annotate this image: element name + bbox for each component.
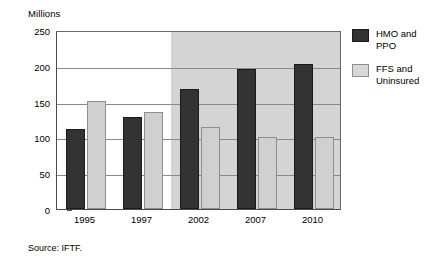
plot-area bbox=[56, 31, 341, 210]
bar-hmo-ppo-1995 bbox=[66, 129, 85, 209]
bar-hmo-ppo-2010 bbox=[294, 64, 313, 209]
bar-ffs-uninsured-2002 bbox=[201, 127, 220, 209]
bar-group bbox=[123, 32, 163, 209]
legend-label: HMO and PPO bbox=[376, 28, 417, 51]
x-axis-tick-label: 1995 bbox=[74, 214, 95, 225]
legend-swatch-ffs bbox=[352, 64, 369, 77]
source-note: Source: IFTF. bbox=[28, 243, 82, 253]
bar-group bbox=[237, 32, 277, 209]
bar-ffs-uninsured-1995 bbox=[87, 101, 106, 209]
bar-ffs-uninsured-2007 bbox=[258, 137, 277, 209]
bar-group bbox=[294, 32, 334, 209]
x-axis-tick-labels: 19951997200220072010 bbox=[56, 214, 341, 230]
x-axis-tick-label: 2002 bbox=[188, 214, 209, 225]
bar-hmo-ppo-1997 bbox=[123, 117, 142, 209]
y-axis-tick-mark bbox=[67, 210, 72, 211]
y-axis-tick-label: 200 bbox=[34, 61, 50, 72]
bar-ffs-uninsured-1997 bbox=[144, 112, 163, 209]
bar-chart-figure: Millions 250200150100500 199519972002200… bbox=[0, 0, 424, 267]
y-axis-tick-label: 150 bbox=[34, 97, 50, 108]
y-axis-tick-label: 50 bbox=[39, 169, 50, 180]
x-axis-tick-label: 1997 bbox=[131, 214, 152, 225]
y-axis-tick-label: 100 bbox=[34, 133, 50, 144]
bar-hmo-ppo-2002 bbox=[180, 89, 199, 209]
legend-swatch-hmo bbox=[352, 29, 369, 42]
bar-group bbox=[66, 32, 106, 209]
y-axis-title: Millions bbox=[28, 8, 60, 19]
bar-group bbox=[180, 32, 220, 209]
x-axis-tick-label: 2010 bbox=[302, 214, 323, 225]
bar-hmo-ppo-2007 bbox=[237, 69, 256, 209]
y-axis-tick-labels: 250200150100500 bbox=[16, 31, 50, 210]
legend-item: FFS and Uninsured bbox=[352, 63, 422, 86]
x-axis-tick-label: 2007 bbox=[245, 214, 266, 225]
legend-item: HMO and PPO bbox=[352, 28, 422, 51]
bar-ffs-uninsured-2010 bbox=[315, 137, 334, 209]
y-axis-tick-label: 0 bbox=[45, 205, 50, 216]
legend-label: FFS and Uninsured bbox=[376, 63, 419, 86]
y-axis-tick-label: 250 bbox=[34, 26, 50, 37]
chart-legend: HMO and PPOFFS and Uninsured bbox=[352, 28, 422, 98]
